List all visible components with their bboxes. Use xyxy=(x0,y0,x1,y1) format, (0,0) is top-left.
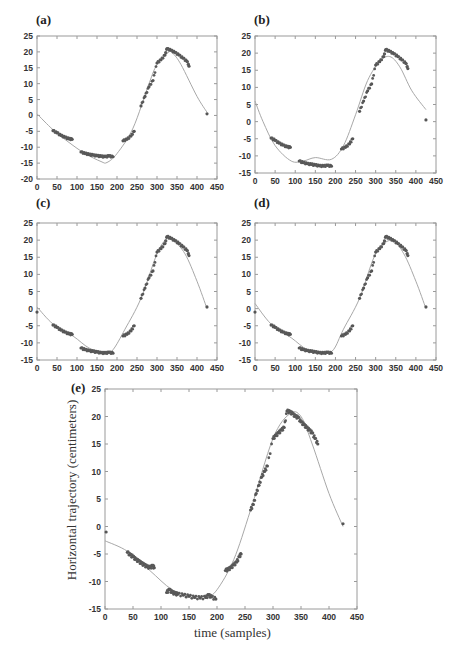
sample-marker xyxy=(111,155,114,158)
sample-marker xyxy=(270,443,273,446)
chart-c: 050100150200250300350400450-15-10-505101… xyxy=(0,190,229,375)
sample-marker xyxy=(371,77,374,80)
plot-frame xyxy=(105,389,357,609)
sample-marker xyxy=(163,242,166,245)
sample-marker xyxy=(313,434,316,437)
y-tick-label: -10 xyxy=(21,142,34,152)
sample-marker xyxy=(189,594,192,597)
sample-marker xyxy=(162,57,165,60)
sample-marker xyxy=(234,564,237,567)
x-tick-label: 200 xyxy=(210,612,224,622)
y-tick-label: 20 xyxy=(24,235,34,245)
sample-marker xyxy=(314,437,317,440)
x-tick-label: 0 xyxy=(253,176,258,186)
y-tick-label: 20 xyxy=(242,235,252,245)
plot-frame xyxy=(255,223,436,360)
x-axis-label: time (samples) xyxy=(194,625,271,641)
sample-marker xyxy=(265,469,268,472)
sample-marker xyxy=(358,110,361,113)
sample-marker xyxy=(251,507,254,510)
plot-frame xyxy=(255,36,436,173)
sample-marker xyxy=(252,503,255,506)
sample-marker xyxy=(196,598,199,601)
y-tick-label: 20 xyxy=(242,48,252,58)
sample-marker xyxy=(147,276,150,279)
y-tick-label: 15 xyxy=(24,63,34,73)
y-tick-label: -20 xyxy=(21,174,34,184)
sample-marker xyxy=(178,592,181,595)
sample-marker xyxy=(146,91,149,94)
sample-marker xyxy=(153,264,156,267)
sample-marker xyxy=(187,65,190,68)
sample-marker xyxy=(151,269,154,272)
sample-marker xyxy=(364,95,367,98)
sample-marker xyxy=(316,442,319,445)
sample-marker xyxy=(146,282,149,285)
sample-marker xyxy=(360,293,363,296)
sample-marker xyxy=(150,83,153,86)
plot-frame xyxy=(37,36,217,179)
sample-marker xyxy=(239,555,242,558)
sample-marker xyxy=(383,53,386,56)
sample-marker xyxy=(341,522,344,525)
y-tick-label: 0 xyxy=(246,304,251,314)
sample-marker xyxy=(142,293,145,296)
x-tick-label: 100 xyxy=(154,612,168,622)
sample-marker xyxy=(151,79,154,82)
y-tick-label: 10 xyxy=(24,79,34,89)
sample-marker xyxy=(266,464,269,467)
y-tick-label: -5 xyxy=(25,321,33,331)
y-tick-label: 10 xyxy=(24,269,34,279)
sample-marker xyxy=(366,276,369,279)
y-tick-label: -15 xyxy=(21,355,34,365)
sample-marker xyxy=(424,305,427,308)
sample-marker xyxy=(139,104,142,107)
chart-d: 050100150200250300350400450-15-10-505101… xyxy=(229,190,458,375)
panel-d: (d) 050100150200250300350400450-15-10-50… xyxy=(229,190,458,370)
sample-marker xyxy=(256,489,259,492)
y-tick-label: 25 xyxy=(24,31,34,41)
sample-marker xyxy=(316,440,319,443)
sample-marker xyxy=(253,499,256,502)
sample-marker xyxy=(284,419,287,422)
sample-marker xyxy=(273,437,276,440)
y-tick-label: 25 xyxy=(92,384,102,394)
sample-marker xyxy=(351,324,354,327)
sample-marker xyxy=(150,274,153,277)
sample-marker xyxy=(262,474,265,477)
sample-marker xyxy=(231,566,234,569)
y-tick-label: -10 xyxy=(239,151,252,161)
sample-marker xyxy=(362,99,365,102)
sample-marker xyxy=(283,426,286,429)
sample-marker xyxy=(133,324,136,327)
sample-marker xyxy=(165,240,168,243)
y-tick-label: 10 xyxy=(92,467,102,477)
sample-marker xyxy=(239,552,242,555)
sample-marker xyxy=(289,333,292,336)
y-tick-label: 10 xyxy=(242,269,252,279)
sample-marker xyxy=(185,596,188,599)
y-tick-label: 5 xyxy=(246,100,251,110)
sample-marker xyxy=(267,456,270,459)
x-tick-label: 250 xyxy=(348,176,362,186)
sample-marker xyxy=(253,310,256,313)
sample-marker xyxy=(155,255,158,258)
sample-marker xyxy=(179,595,182,598)
x-tick-label: 0 xyxy=(103,612,108,622)
sample-marker xyxy=(131,328,134,331)
sample-marker xyxy=(373,255,376,258)
sample-marker xyxy=(373,68,376,71)
sample-marker xyxy=(279,432,282,435)
y-tick-label: 25 xyxy=(24,218,34,228)
sample-marker xyxy=(133,130,136,133)
sample-marker xyxy=(139,297,142,300)
sample-marker xyxy=(380,246,383,249)
y-tick-label: -5 xyxy=(243,134,251,144)
sample-marker xyxy=(200,595,203,598)
sample-marker xyxy=(370,269,373,272)
plot-frame xyxy=(37,223,217,360)
y-tick-label: -15 xyxy=(239,168,252,178)
sample-marker xyxy=(281,429,284,432)
y-tick-label: -5 xyxy=(25,126,33,136)
sample-marker xyxy=(111,352,114,355)
